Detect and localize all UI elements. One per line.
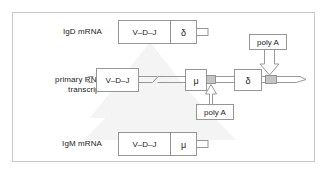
figure-canvas: IgD mRNA primary RNA transcript IgM mRNA… [0,0,331,175]
poly-a-right-arrow [260,50,279,76]
igm-segment-mu-label: μ [181,140,186,150]
poly-a-left-arrow [206,85,217,105]
primary-segment-vdj-label: V–D–J [105,76,129,85]
annotation-poly-a-right: poly A [250,35,287,76]
primary-segment-mu-label: μ [193,76,198,86]
igm-mrna-row: V–D–J μ [119,133,209,156]
igm-segment-vdj-label: V–D–J [132,140,156,149]
strand-left-cap [87,77,94,83]
strand-break-symbol [148,77,163,83]
diagram-vector-layer: V–D–J δ V–D–J [0,0,331,175]
mu-polyA-site [207,76,216,84]
primary-transcript-row: V–D–J μ δ [87,69,307,92]
igd-mrna-row: V–D–J δ [119,21,209,44]
igd-segment-vdj-label: V–D–J [132,28,156,37]
strand-right-open-end [296,77,306,83]
primary-segment-delta-label: δ [245,76,250,86]
delta-polyA-site [266,76,277,84]
igd-segment-delta-label: δ [181,28,186,38]
poly-a-left-label: poly A [204,108,226,117]
poly-a-right-label: poly A [257,38,279,47]
